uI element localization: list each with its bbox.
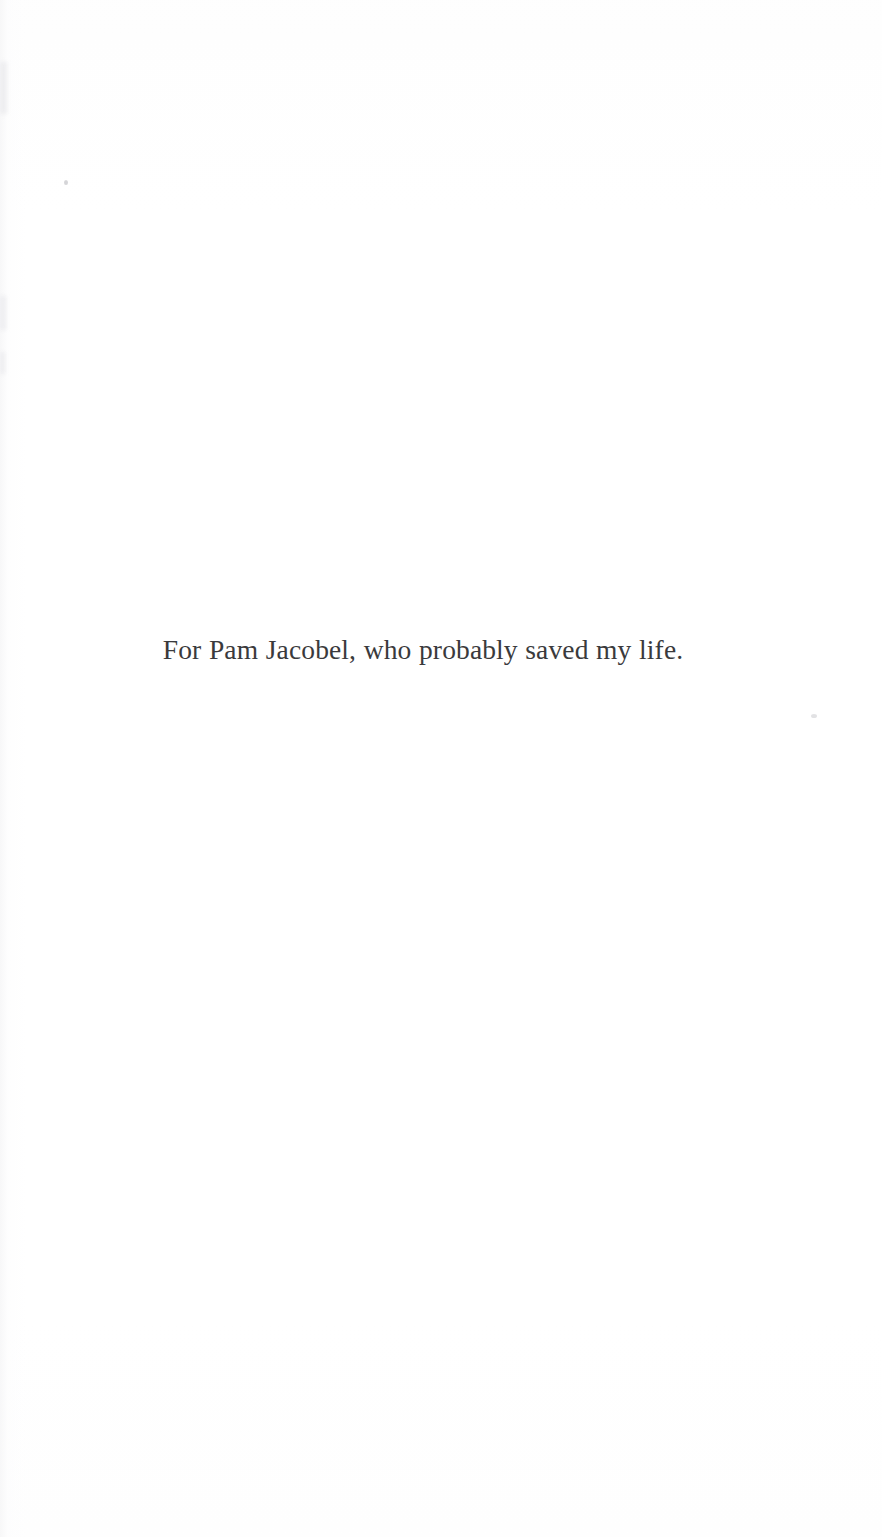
dust-speck-upper-left: [64, 180, 68, 185]
dedication-text: For Pam Jacobel, who probably saved my l…: [163, 633, 683, 667]
scan-edge-mark-top: [0, 62, 7, 114]
dedication-page: For Pam Jacobel, who probably saved my l…: [0, 0, 882, 1537]
paper-surface: [0, 0, 882, 1537]
dust-speck-right: [811, 714, 817, 718]
scan-edge-mark-middle: [0, 296, 6, 330]
dedication-block: For Pam Jacobel, who probably saved my l…: [0, 633, 882, 667]
scan-edge-mark-lower: [0, 352, 5, 374]
